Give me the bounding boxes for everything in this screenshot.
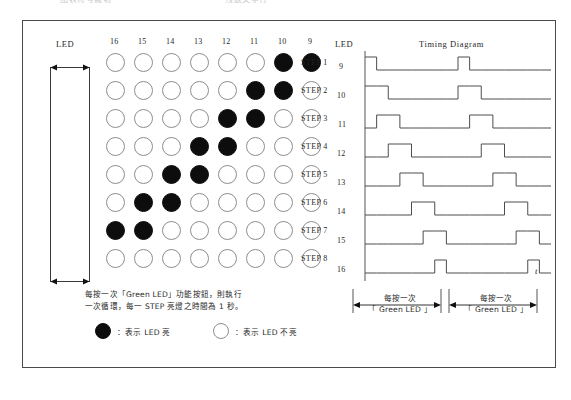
legend: ：表示 LED 亮 ：表示 LED 不亮	[95, 321, 335, 343]
ghost-text-left: 图表符号裁切	[60, 0, 111, 4]
legend-off-icon	[213, 323, 229, 339]
legend-on-text: ：表示 LED 亮	[117, 326, 171, 337]
caption-line-1: 每按一次「Green LED」功能按鈕，則執行	[85, 289, 315, 301]
led-matrix-panel: LED 16 15 14 13 12 11 10 9	[23, 21, 323, 281]
cycle-annotation-line-1: 每按一次	[461, 293, 531, 304]
timing-waveform	[365, 57, 551, 70]
caption-line-2: 一次循環，每一 STEP 亮燈之時間為 1 秒。	[85, 301, 315, 313]
timing-waveform	[365, 202, 551, 215]
figure-frame: LED 16 15 14 13 12 11 10 9	[22, 20, 556, 368]
timing-waveform	[365, 144, 551, 157]
cycle-annotation-line-2: 「 Green LED 」	[365, 304, 435, 315]
timing-waveform	[365, 231, 551, 244]
timing-diagram-panel: LED Timing Diagram 9 10 11 12 13 14 15 1…	[323, 21, 557, 369]
legend-on-icon	[95, 323, 111, 339]
cycle-annotation-left: 每按一次 「 Green LED 」	[365, 293, 435, 315]
cycle-annotation-line-2: 「 Green LED 」	[461, 304, 531, 315]
timing-waveform	[365, 115, 551, 128]
ghost-text-right: 残缺文字行	[225, 0, 268, 4]
timing-waveform	[365, 260, 551, 273]
timing-waveform	[365, 86, 551, 99]
top-ghost-strip: 图表符号裁切 残缺文字行	[0, 0, 571, 12]
timing-waveforms	[323, 21, 557, 311]
step-labels: STEP 1 STEP 2 STEP 3 STEP 4 STEP 5 STEP …	[23, 21, 323, 281]
time-axis-label: t	[535, 266, 538, 276]
cycle-annotation-line-1: 每按一次	[365, 293, 435, 304]
caption-block: 每按一次「Green LED」功能按鈕，則執行 一次循環，每一 STEP 亮燈之…	[85, 289, 315, 313]
timing-waveform	[365, 173, 551, 186]
cycle-annotation-right: 每按一次 「 Green LED 」	[461, 293, 531, 315]
legend-off-text: ：表示 LED 不亮	[235, 326, 297, 337]
